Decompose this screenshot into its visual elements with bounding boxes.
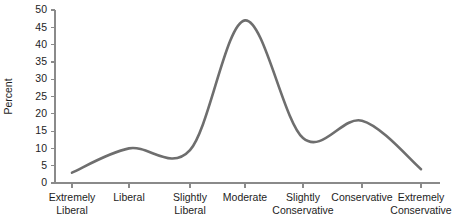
y-axis-title: Percent	[2, 78, 14, 114]
y-tick-label: 50	[35, 3, 47, 15]
x-category-label: ExtremelyLiberal	[49, 191, 96, 217]
x-category-label: Conservative	[331, 191, 392, 204]
y-tick-label: 25	[35, 90, 47, 102]
y-tick-label: 15	[35, 124, 47, 136]
ideology-distribution-chart: 05101520253035404550 Percent ExtremelyLi…	[0, 0, 452, 224]
y-tick-label: 10	[35, 142, 47, 154]
x-category-label-line: Slightly	[173, 191, 207, 204]
x-category-label: ExtremelyConservative	[390, 191, 451, 217]
y-tick-label: 35	[35, 55, 47, 67]
y-tick-label: 30	[35, 72, 47, 84]
x-category-label-line: Slightly	[272, 191, 333, 204]
x-category-label-line: Liberal	[113, 191, 145, 204]
x-axis-ticks	[72, 183, 421, 188]
y-tick-label: 45	[35, 21, 47, 33]
x-category-label: SlightlyLiberal	[173, 191, 207, 217]
y-axis-tick-labels: 05101520253035404550	[35, 3, 47, 188]
y-tick-label: 20	[35, 107, 47, 119]
x-category-label-line: Liberal	[173, 204, 207, 217]
x-category-label: Liberal	[113, 191, 145, 204]
x-category-label-line: Extremely	[49, 191, 96, 204]
x-category-label: Moderate	[223, 191, 267, 204]
x-category-label-line: Liberal	[49, 204, 96, 217]
x-category-label-line: Conservative	[390, 204, 451, 217]
x-category-label-line: Conservative	[272, 204, 333, 217]
percent-series-line	[72, 20, 421, 172]
x-category-label-line: Moderate	[223, 191, 267, 204]
x-category-label: SlightlyConservative	[272, 191, 333, 217]
y-tick-label: 5	[41, 159, 47, 171]
y-tick-label: 0	[41, 176, 47, 188]
y-tick-label: 40	[35, 38, 47, 50]
x-category-label-line: Extremely	[390, 191, 451, 204]
x-category-label-line: Conservative	[331, 191, 392, 204]
